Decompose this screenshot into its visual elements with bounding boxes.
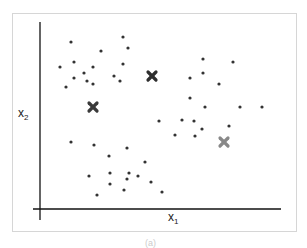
data-point [92,143,95,146]
data-point [125,146,128,149]
data-point [95,193,98,196]
centroid-x-icon [220,138,228,146]
data-point [188,76,191,79]
data-point [69,40,72,43]
data-point [72,60,75,63]
data-point [64,85,67,88]
data-point [203,105,206,108]
data-point [127,171,130,174]
data-point [82,71,85,74]
data-point [85,79,88,82]
data-point [160,190,163,193]
data-point [200,127,203,130]
x-axis-label: x1 [168,210,178,226]
data-point [180,118,183,121]
data-point [87,174,90,177]
figure-caption: (a) [145,238,156,248]
data-point [231,60,234,63]
data-point [260,105,263,108]
data-point [157,119,160,122]
data-point [108,182,111,185]
data-point [91,65,94,68]
data-point [125,177,128,180]
data-point [192,119,195,122]
centroid-markers [89,72,228,146]
centroid-x-icon [89,103,97,111]
data-point [58,65,61,68]
data-point [108,171,111,174]
y-axis-label: x2 [18,106,28,122]
data-point [173,133,176,136]
data-point [143,160,146,163]
data-point [118,79,121,82]
data-point [238,105,241,108]
data-point [201,71,204,74]
data-point [136,174,139,177]
data-point [72,76,75,79]
data-point [126,46,129,49]
data-point [121,62,124,65]
data-points [58,35,263,196]
data-point [107,154,110,157]
data-point [112,74,115,77]
data-point [69,140,72,143]
data-point [217,82,220,85]
data-point [201,57,204,60]
data-point [227,124,230,127]
data-point [149,180,152,183]
data-point [91,82,94,85]
data-point [121,35,124,38]
centroid-x-icon [148,72,156,80]
data-point [188,96,191,99]
data-point [99,49,102,52]
data-point [122,188,125,191]
data-point [193,134,196,137]
